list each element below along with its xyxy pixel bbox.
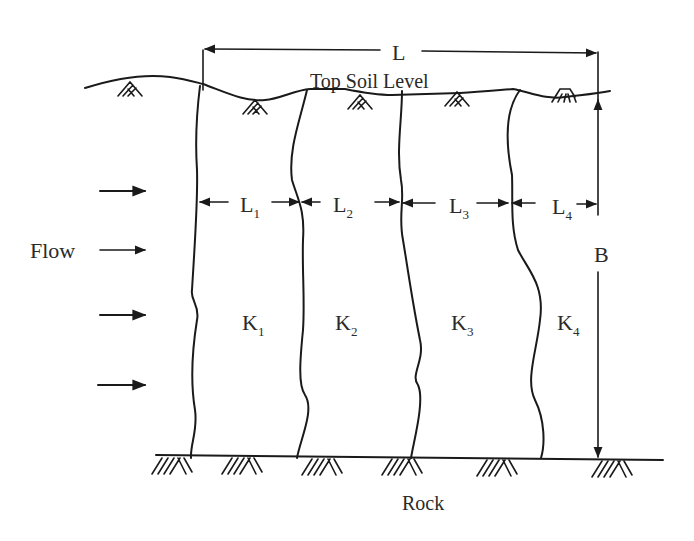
layer-1-permeability-label: K1: [242, 310, 264, 339]
layer-2-length-label: L2: [333, 192, 353, 221]
svg-text:L2: L2: [333, 192, 353, 221]
svg-text:L3: L3: [449, 193, 469, 222]
svg-text:K3: K3: [451, 310, 473, 339]
layer-3-permeability-label: K3: [451, 310, 473, 339]
rock-label: Rock: [402, 492, 444, 514]
layer-length-dimensions: [200, 202, 596, 204]
stratified-soil-diagram: L Top Soil Level L1 L2 L3 L4: [0, 0, 694, 541]
layer-4-permeability-label: K4: [557, 310, 580, 339]
svg-text:L4: L4: [552, 194, 572, 223]
svg-text:K4: K4: [557, 310, 580, 339]
svg-text:L1: L1: [240, 192, 260, 221]
layer-4-length-label: L4: [552, 194, 572, 223]
layer-boundaries: [191, 86, 544, 458]
ground-hatch-bottom: [152, 458, 632, 477]
total-length-label: L: [392, 40, 405, 65]
thickness-label: B: [594, 242, 609, 267]
svg-text:K2: K2: [335, 310, 357, 339]
flow-arrows: [98, 191, 145, 385]
layer-3-length-label: L3: [449, 193, 469, 222]
thickness-dimension: B: [594, 100, 609, 457]
flow-label: Flow: [30, 238, 75, 263]
layer-2-permeability-label: K2: [335, 310, 357, 339]
layer-1-length-label: L1: [240, 192, 260, 221]
svg-text:K1: K1: [242, 310, 264, 339]
